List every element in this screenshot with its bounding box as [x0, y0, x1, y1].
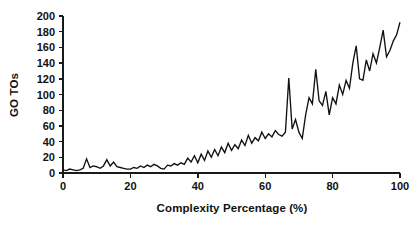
- x-tick-label: 20: [124, 180, 136, 192]
- y-tick-label: 20: [43, 151, 55, 163]
- y-tick-label: 200: [37, 10, 55, 22]
- x-tick-label: 0: [60, 180, 66, 192]
- x-tick-label: 60: [259, 180, 271, 192]
- data-series-line: [63, 22, 400, 170]
- y-tick-label: 160: [37, 41, 55, 53]
- y-tick-label: 80: [43, 104, 55, 116]
- y-tick-label: 180: [37, 26, 55, 38]
- chart-container: 020406080100120140160180200 020406080100…: [0, 0, 411, 225]
- x-tick-label: 100: [391, 180, 409, 192]
- y-tick-label: 60: [43, 120, 55, 132]
- y-tick-label: 100: [37, 89, 55, 101]
- y-tick-label: 40: [43, 136, 55, 148]
- y-axis-tick-labels: 020406080100120140160180200: [37, 10, 55, 179]
- line-chart: 020406080100120140160180200 020406080100…: [0, 0, 411, 225]
- x-axis-title: Complexity Percentage (%): [157, 202, 308, 214]
- x-tick-label: 80: [326, 180, 338, 192]
- x-tick-label: 40: [192, 180, 204, 192]
- y-axis-title: GO TOs: [8, 73, 20, 117]
- y-tick-label: 140: [37, 57, 55, 69]
- y-tick-label: 0: [49, 167, 55, 179]
- x-axis-tick-labels: 020406080100: [60, 180, 409, 192]
- y-tick-label: 120: [37, 73, 55, 85]
